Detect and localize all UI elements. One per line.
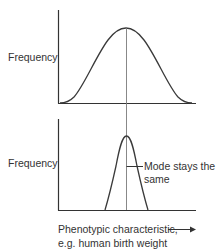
mode-annotation-line2: same <box>144 173 170 185</box>
top-bell-curve <box>60 28 192 103</box>
stabilising-selection-diagram: Frequency Frequency Mode stays the same … <box>0 0 216 252</box>
bottom-y-axis-label: Frequency <box>8 157 58 169</box>
top-y-axis-label: Frequency <box>8 51 58 63</box>
x-axis-label-line2: e.g. human birth weight <box>58 237 167 249</box>
x-axis-label-line1: Phenotypic characteristic, <box>58 223 178 235</box>
mode-annotation-line1: Mode stays the <box>144 160 215 172</box>
diagram-canvas <box>0 0 216 252</box>
